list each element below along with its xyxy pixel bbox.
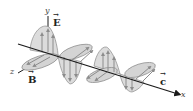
electric-field-label: →E bbox=[53, 17, 61, 28]
y-axis-label: y bbox=[45, 6, 50, 15]
x-axis-label: x bbox=[181, 90, 186, 99]
magnetic-field-label: →B bbox=[28, 74, 36, 85]
z-axis-label: z bbox=[10, 67, 14, 76]
velocity-label: →c bbox=[160, 76, 166, 87]
em-wave-diagram bbox=[0, 0, 193, 111]
